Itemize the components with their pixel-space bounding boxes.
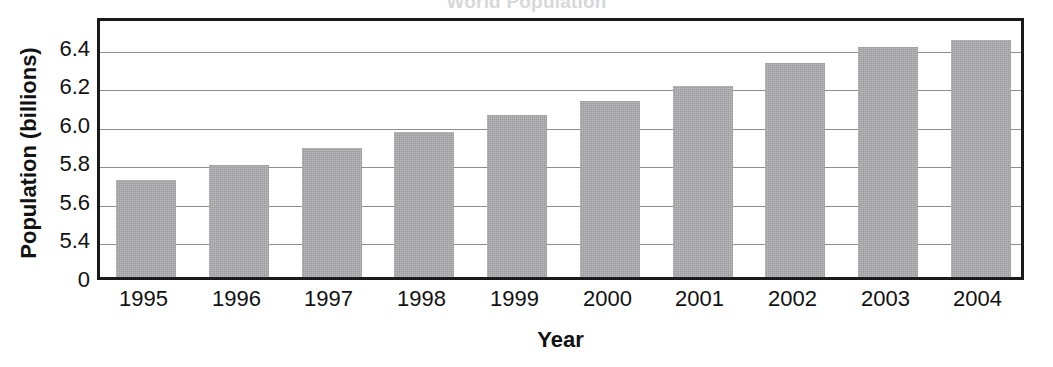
y-axis-tick-label: 6.4 <box>28 38 90 60</box>
bar <box>858 47 918 277</box>
y-axis-tick-label: 6.0 <box>28 115 90 137</box>
bar-series <box>100 21 1021 277</box>
bar <box>580 101 640 277</box>
x-axis-tick-label: 1998 <box>375 288 468 310</box>
x-axis-tick-label: 2001 <box>653 288 746 310</box>
x-axis-tick-label: 2003 <box>839 288 932 310</box>
x-axis-tick-label: 2000 <box>561 288 654 310</box>
bar <box>394 132 454 277</box>
bar <box>765 63 825 277</box>
x-axis-title: Year <box>97 327 1024 353</box>
y-axis-tick-label: 5.6 <box>28 192 90 214</box>
bar <box>116 180 176 277</box>
bar <box>302 148 362 277</box>
plot-area <box>97 18 1024 280</box>
x-axis-tick-label: 2004 <box>931 288 1024 310</box>
y-axis-tick-label: 5.4 <box>28 230 90 252</box>
x-axis-tick-label: 2002 <box>746 288 839 310</box>
bar <box>209 165 269 277</box>
y-axis-tick-label: 0 <box>28 269 90 291</box>
chart-title: World Population <box>0 0 1053 13</box>
bar <box>487 115 547 277</box>
bar-chart: World Population Population (billions) 6… <box>0 0 1053 367</box>
y-axis-tick-labels: 6.46.26.05.85.65.40 <box>22 0 90 367</box>
y-axis-tick-label: 6.2 <box>28 76 90 98</box>
bar <box>951 40 1011 277</box>
bar <box>673 86 733 277</box>
y-axis-tick-label: 5.8 <box>28 153 90 175</box>
x-axis-tick-labels: 1995199619971998199920002001200220032004 <box>97 288 1024 318</box>
x-axis-tick-label: 1996 <box>190 288 283 310</box>
x-axis-tick-label: 1999 <box>468 288 561 310</box>
x-axis-tick-label: 1995 <box>97 288 190 310</box>
x-axis-tick-label: 1997 <box>282 288 375 310</box>
